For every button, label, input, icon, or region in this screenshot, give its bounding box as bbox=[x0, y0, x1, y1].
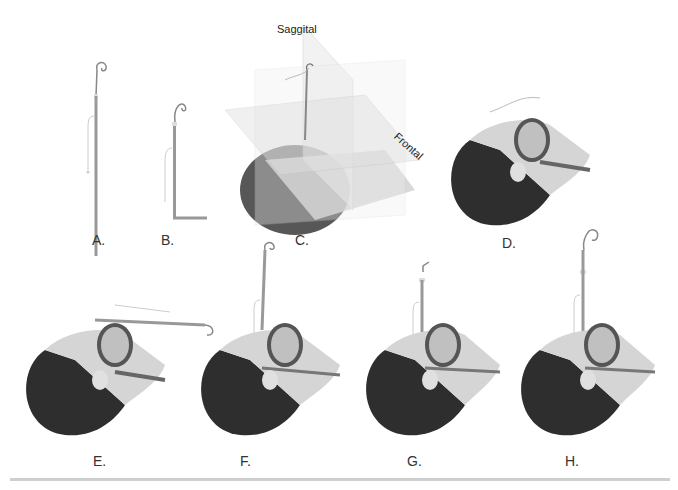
head-tube-vertical-illustration bbox=[190, 240, 360, 450]
panel-h: H. bbox=[510, 220, 678, 490]
head-tube-final-illustration bbox=[510, 220, 678, 450]
panel-label-f: F. bbox=[240, 453, 251, 469]
panel-f: F. bbox=[190, 240, 360, 490]
panel-e: E. bbox=[15, 300, 215, 490]
head-stylet-withdrawn-illustration bbox=[355, 240, 515, 450]
plane-label-saggital: Saggital bbox=[277, 23, 317, 35]
panel-label-b: B. bbox=[161, 232, 174, 248]
bottom-divider bbox=[10, 478, 670, 481]
panel-a: A. bbox=[80, 60, 120, 260]
panel-label-a: A. bbox=[92, 232, 105, 248]
panel-b: B. bbox=[155, 90, 215, 260]
panel-label-h: H. bbox=[565, 453, 579, 469]
panel-label-g: G. bbox=[407, 453, 422, 469]
panel-label-e: E. bbox=[93, 453, 106, 469]
head-laryngoscope-illustration bbox=[440, 90, 640, 240]
panel-g: G. bbox=[355, 240, 515, 490]
panel-c: Saggital Frontal C. bbox=[225, 20, 435, 260]
stylet-straight-icon bbox=[80, 60, 120, 260]
